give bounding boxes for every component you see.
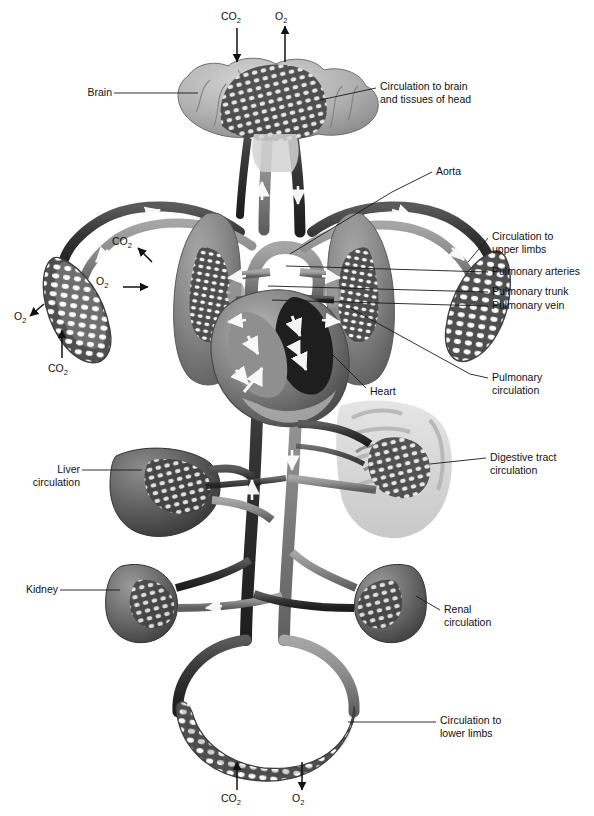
label-liver-circulation: Livercirculation xyxy=(10,463,80,488)
label-kidney: Kidney xyxy=(4,583,58,596)
gas-label-lung-co2: CO2 xyxy=(112,235,132,250)
label-pulmonary-circulation: Pulmonarycirculation xyxy=(492,371,590,396)
circulatory-system-diagram xyxy=(0,0,594,816)
gas-label-leg-co2: CO2 xyxy=(221,792,241,807)
lung-co2-arrow xyxy=(138,248,152,262)
label-circulation-lower-limbs: Circulation tolower limbs xyxy=(440,714,550,739)
label-aorta: Aorta xyxy=(436,165,516,178)
label-circulation-upper-limbs: Circulation toupper limbs xyxy=(492,230,592,255)
arm-o2-arrow xyxy=(30,304,44,316)
label-pulmonary-trunk: Pulmonary trunk xyxy=(492,285,594,298)
lower-limb-capillary-bed xyxy=(176,700,355,781)
label-renal-circulation: Renalcirculation xyxy=(444,603,524,628)
brain-organ xyxy=(178,58,378,172)
lower-limb-vessels xyxy=(178,640,354,712)
upper-limb-capillary-bed-left xyxy=(43,257,111,362)
gas-label-head-o2: O2 xyxy=(275,10,287,25)
renal-vessels xyxy=(176,552,356,608)
heart-organ xyxy=(211,290,349,427)
label-circulation-head: Circulation to brainand tissues of head xyxy=(380,80,570,105)
label-pulmonary-vein: Pulmonary vein xyxy=(492,299,594,312)
gas-label-arm-co2: CO2 xyxy=(48,362,68,377)
liver-organ xyxy=(110,448,220,536)
gas-label-head-co2: CO2 xyxy=(221,10,241,25)
left-kidney-organ xyxy=(106,564,178,642)
figure-canvas: CO2 O2 CO2 O2 O2 CO2 CO2 O2 Brain Circul… xyxy=(0,0,594,816)
gas-label-leg-o2: O2 xyxy=(292,792,304,807)
gas-label-lung-o2: O2 xyxy=(96,275,108,290)
right-kidney-organ xyxy=(354,564,426,642)
label-heart: Heart xyxy=(370,385,430,398)
digestive-tract-organ xyxy=(336,401,452,539)
gas-label-arm-o2: O2 xyxy=(14,310,26,325)
label-pulmonary-arteries: Pulmonary arteries xyxy=(492,265,594,278)
label-digestive-tract-circulation: Digestive tractcirculation xyxy=(490,451,590,476)
label-brain: Brain xyxy=(54,86,112,99)
